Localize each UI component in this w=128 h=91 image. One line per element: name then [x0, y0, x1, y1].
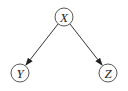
edge-x-to-y: [26, 24, 58, 65]
node-x: X: [55, 8, 73, 26]
node-y: Y: [11, 64, 29, 82]
dag-diagram: X Y Z: [0, 0, 128, 91]
node-z-label: Z: [104, 66, 112, 81]
edge-x-to-z: [70, 24, 102, 65]
node-z: Z: [99, 64, 117, 82]
node-x-label: X: [59, 10, 69, 25]
